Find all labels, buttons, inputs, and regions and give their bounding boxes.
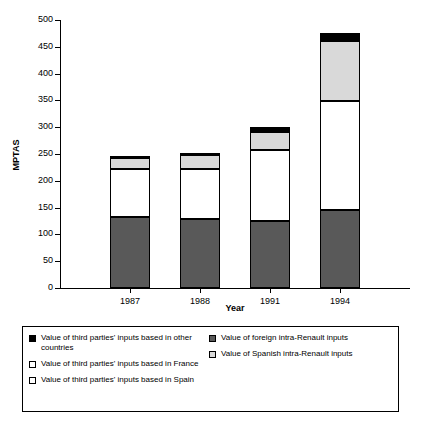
y-tick-mark [55,20,60,21]
y-axis-line [60,20,61,289]
bar-1988 [180,153,220,288]
y-tick-mark [55,234,60,235]
y-tick-mark [55,74,60,75]
x-axis-line [60,288,410,289]
y-tick-mark [55,47,60,48]
bar-segment [320,101,360,210]
legend-item: Value of foreign intra-Renault inputs [209,333,395,343]
bar-segment [250,132,290,150]
bar-segment [250,127,290,131]
legend-swatch-icon [29,335,36,342]
legend-label: Value of third parties' inputs based in … [41,375,194,385]
y-tick-mark [55,154,60,155]
x-tick-mark [130,288,131,293]
y-axis-title: MPTAS [11,125,21,185]
y-tick-mark [55,181,60,182]
stacked-bar-chart: MPTAS 050100150200250300350400450500 198… [0,0,421,324]
bar-1987 [110,157,150,288]
y-tick-label: 200 [23,175,53,185]
y-tick-label: 150 [23,202,53,212]
bar-segment [180,155,220,169]
y-tick-mark [55,127,60,128]
legend-swatch-icon [209,351,216,358]
y-tick-label: 500 [23,14,53,24]
legend-label: Value of Spanish intra-Renault inputs [221,349,353,359]
bar-segment [250,150,290,221]
y-tick-label: 50 [23,255,53,265]
x-tick-mark [270,288,271,293]
x-tick-mark [200,288,201,293]
y-tick-label: 350 [23,94,53,104]
bar-segment [110,156,150,158]
legend-column-left: Value of third parties' inputs based in … [29,333,205,391]
bar-segment [320,33,360,41]
legend-label: Value of foreign intra-Renault inputs [221,333,348,343]
bar-segment [250,221,290,288]
legend-item: Value of Spanish intra-Renault inputs [209,349,395,359]
legend-swatch-icon [209,335,216,342]
x-tick-mark [340,288,341,293]
legend-item: Value of third parties' inputs based in … [29,375,205,385]
bar-1991 [250,127,290,288]
y-tick-mark [55,208,60,209]
bar-segment [110,158,150,169]
legend-swatch-icon [29,361,36,368]
y-tick-label: 300 [23,121,53,131]
legend-label: Value of third parties' inputs based in … [41,333,205,353]
y-tick-label: 100 [23,228,53,238]
y-tick-label: 250 [23,148,53,158]
bar-segment [110,217,150,288]
bar-1994 [320,33,360,288]
bar-segment [180,219,220,288]
y-tick-label: 0 [23,282,53,292]
legend-item: Value of third parties' inputs based in … [29,359,205,369]
bar-segment [320,210,360,288]
x-axis-title: Year [60,303,410,313]
y-tick-mark [55,261,60,262]
bar-segment [110,169,150,217]
chart-legend: Value of third parties' inputs based in … [22,326,399,412]
plot-area: 050100150200250300350400450500 198719881… [60,20,410,288]
legend-swatch-icon [29,377,36,384]
bar-segment [180,169,220,219]
bar-segment [320,41,360,101]
y-tick-label: 400 [23,68,53,78]
legend-item: Value of third parties' inputs based in … [29,333,205,353]
y-tick-mark [55,288,60,289]
bar-segment [180,153,220,155]
legend-label: Value of third parties' inputs based in … [41,359,198,369]
y-tick-mark [55,100,60,101]
y-tick-label: 450 [23,41,53,51]
legend-column-right: Value of foreign intra-Renault inputsVal… [209,333,395,365]
